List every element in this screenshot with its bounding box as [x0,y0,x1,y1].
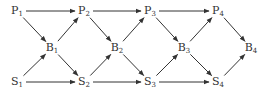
node-p1: P1 [11,5,23,18]
node-subscript: 2 [85,10,89,18]
node-b3: B3 [178,42,191,55]
arrow-p3-to-b3 [156,18,178,42]
node-label: B [46,41,54,54]
arrow-b1-to-s2 [58,55,78,76]
node-p2: P2 [78,5,90,18]
arrow-s2-to-b2 [90,54,110,75]
node-subscript: 2 [86,81,90,89]
arrow-b1-to-p2 [58,18,78,41]
node-subscript: 1 [19,81,23,89]
arrow-b3-to-p4 [190,18,212,42]
arrow-b3-to-s4 [190,54,211,75]
arrow-s4-to-b4 [224,54,244,75]
node-s3: S3 [144,76,156,89]
node-label: B [178,41,186,54]
node-subscript: 3 [186,47,190,55]
node-s1: S1 [11,76,23,89]
node-subscript: 3 [151,10,155,18]
node-subscript: 2 [119,47,123,55]
node-label: B [111,41,119,54]
node-subscript: 1 [54,47,58,55]
node-subscript: 3 [152,81,156,89]
arrow-p1-to-b1 [23,18,46,42]
node-label: S [78,75,86,88]
node-subscript: 1 [18,10,22,18]
node-b2: B2 [111,42,124,55]
arrow-b2-to-s3 [123,54,143,75]
node-subscript: 4 [253,47,257,55]
flow-diagram: P1P2P3P4B1B2B3B4S1S2S3S4 [0,0,267,94]
node-label: S [144,75,152,88]
arrow-p4-to-b4 [224,18,245,42]
arrow-s1-to-b1 [23,54,45,75]
node-s2: S2 [78,76,90,89]
node-b4: B4 [245,42,258,55]
arrow-s3-to-b3 [156,54,177,75]
node-b1: B1 [46,42,59,55]
arrow-b2-to-p3 [123,18,144,42]
node-p4: P4 [212,5,224,18]
node-subscript: 4 [219,10,223,18]
node-s4: S4 [212,76,224,89]
node-p3: P3 [144,5,156,18]
node-label: S [11,75,19,88]
edge-layer [0,0,267,94]
node-label: S [212,75,220,88]
node-subscript: 4 [220,81,224,89]
arrow-p2-to-b2 [90,18,111,42]
node-label: B [245,41,253,54]
